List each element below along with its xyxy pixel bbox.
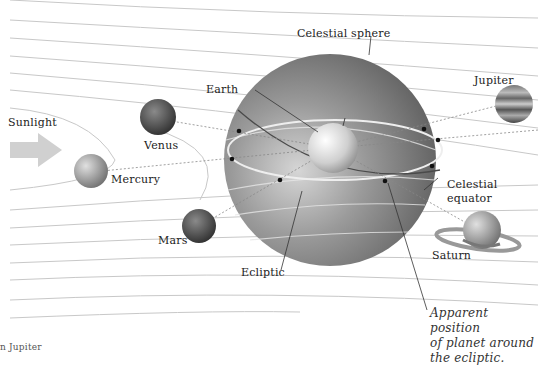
mercury-planet xyxy=(74,154,108,188)
venus-planet xyxy=(140,99,176,135)
celestial-equator-label: Celestial equator xyxy=(447,178,497,206)
mars-label: Mars xyxy=(158,234,188,247)
sunlight-arrow-icon xyxy=(10,133,62,167)
ecliptic-label: Ecliptic xyxy=(241,266,285,279)
jupiter-label: Jupiter xyxy=(474,74,514,87)
jupiter-planet xyxy=(495,85,533,123)
earth-label: Earth xyxy=(206,83,238,96)
celestial-sphere-label: Celestial sphere xyxy=(297,27,390,40)
sunlight-label: Sunlight xyxy=(8,116,57,129)
apparent-position-label: Apparent position of planet around the e… xyxy=(430,306,538,366)
caption-fragment: n Jupiter xyxy=(0,342,42,352)
venus-label: Venus xyxy=(144,139,178,152)
saturn-label: Saturn xyxy=(432,249,471,262)
mercury-label: Mercury xyxy=(111,173,160,186)
